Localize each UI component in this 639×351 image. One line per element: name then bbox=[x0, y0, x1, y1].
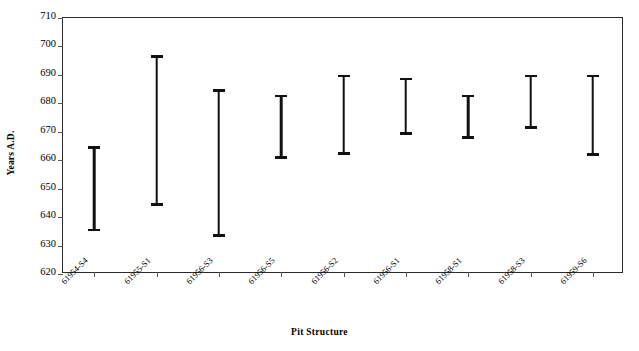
plot-area bbox=[62, 17, 623, 273]
error-bar-stem bbox=[280, 95, 283, 159]
error-bar-stem bbox=[155, 55, 158, 206]
y-axis-tick-label: 700 bbox=[22, 39, 56, 50]
y-axis-tick-label: 660 bbox=[22, 153, 56, 164]
error-bar-cap-high bbox=[525, 75, 537, 78]
error-bar-cap-high bbox=[462, 95, 474, 98]
error-bar-cap-low bbox=[587, 153, 599, 156]
y-axis-tick bbox=[58, 217, 63, 218]
y-axis-tick-label: 680 bbox=[22, 96, 56, 107]
x-axis-tick bbox=[219, 272, 220, 277]
x-axis-tick bbox=[593, 272, 594, 277]
y-axis-tick-label: 650 bbox=[22, 182, 56, 193]
error-bar-cap-low bbox=[88, 229, 100, 232]
error-bar-cap-low bbox=[525, 126, 537, 129]
error-bar-cap-high bbox=[275, 95, 287, 98]
y-axis-tick bbox=[58, 18, 63, 19]
y-axis-tick bbox=[58, 160, 63, 161]
y-axis-tick-label: 620 bbox=[22, 267, 56, 278]
y-axis-title-text: Years A.D. bbox=[6, 108, 16, 198]
x-axis-title: Pit Structure bbox=[0, 327, 639, 337]
x-axis-tick bbox=[531, 272, 532, 277]
error-bar-cap-high bbox=[338, 75, 350, 78]
y-axis-tick bbox=[58, 189, 63, 190]
x-axis-tick bbox=[468, 272, 469, 277]
x-axis-tick bbox=[406, 272, 407, 277]
y-axis-tick-label: 640 bbox=[22, 210, 56, 221]
error-bar-cap-low bbox=[462, 136, 474, 139]
error-bar-stem bbox=[467, 95, 470, 139]
error-bar-cap-high bbox=[213, 89, 225, 92]
error-bar-cap-high bbox=[88, 146, 100, 149]
error-bar-cap-low bbox=[213, 234, 225, 237]
error-bar-cap-low bbox=[400, 132, 412, 135]
y-axis-tick-label: 710 bbox=[22, 11, 56, 22]
x-axis-tick bbox=[157, 272, 158, 277]
y-axis-tick-label: 690 bbox=[22, 68, 56, 79]
error-bar-cap-low bbox=[338, 152, 350, 155]
error-bar-stem bbox=[405, 78, 408, 135]
error-bar-cap-low bbox=[275, 156, 287, 159]
y-axis-tick bbox=[58, 246, 63, 247]
error-bar-stem bbox=[592, 75, 595, 156]
error-bar-stem bbox=[529, 75, 532, 129]
error-bar-stem bbox=[342, 75, 345, 155]
error-bar-cap-high bbox=[400, 78, 412, 81]
x-axis-tick bbox=[281, 272, 282, 277]
error-bar-cap-high bbox=[587, 75, 599, 78]
error-bar-stem bbox=[93, 146, 96, 231]
error-bar-cap-high bbox=[151, 55, 163, 58]
y-axis-tick-label: 630 bbox=[22, 239, 56, 250]
y-axis-title: Years A.D. bbox=[2, 18, 12, 108]
y-axis-tick bbox=[58, 46, 63, 47]
x-axis-tick bbox=[344, 272, 345, 277]
error-bar-stem bbox=[218, 89, 221, 237]
y-axis-tick bbox=[58, 103, 63, 104]
chart-container: Years A.D. 71070069068067066065064063062… bbox=[0, 0, 639, 351]
error-bar-cap-low bbox=[151, 203, 163, 206]
y-axis-tick bbox=[58, 75, 63, 76]
x-axis-tick bbox=[94, 272, 95, 277]
y-axis-tick bbox=[58, 132, 63, 133]
y-axis-tick-label: 670 bbox=[22, 125, 56, 136]
